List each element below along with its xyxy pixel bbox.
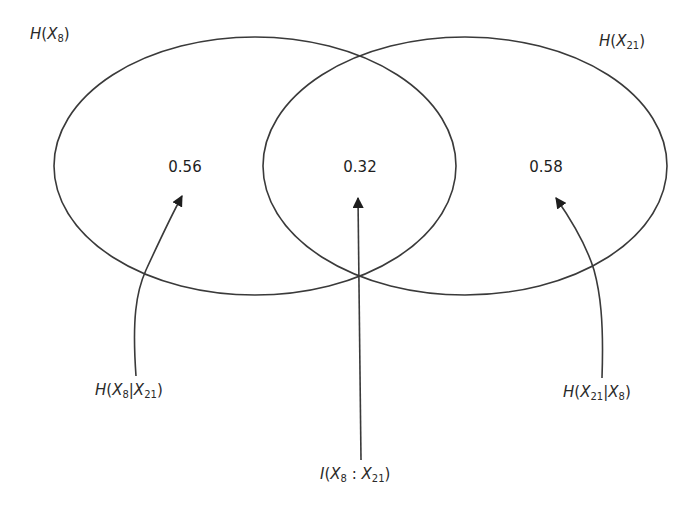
venn-diagram-canvas — [0, 0, 689, 513]
value-x8-only: 0.56 — [168, 160, 201, 175]
label-h-x21-given-x8: H(X21|X8) — [563, 385, 631, 402]
var-symbol: X — [580, 383, 590, 401]
var-symbol: X — [47, 25, 57, 43]
subscript: 8 — [57, 33, 63, 44]
label-h-x8-given-x21: H(X8|X21) — [95, 383, 163, 400]
subscript: 21 — [372, 473, 385, 484]
var-symbol: X — [616, 32, 626, 50]
fn-symbol: H — [563, 383, 574, 401]
set-x8-ellipse — [54, 37, 456, 295]
subscript: 21 — [144, 389, 157, 400]
var-symbol: X — [330, 465, 340, 483]
arrow-right-conditional — [556, 198, 603, 378]
fn-symbol: I — [320, 465, 324, 483]
var-symbol: X — [112, 381, 122, 399]
fn-symbol: H — [95, 381, 106, 399]
var-symbol: X — [608, 383, 618, 401]
subscript: 21 — [626, 40, 639, 51]
value-intersection: 0.32 — [343, 160, 376, 175]
set-x21-ellipse — [263, 37, 667, 295]
var-symbol: X — [134, 381, 144, 399]
separator: : — [347, 465, 362, 483]
subscript: 21 — [590, 391, 603, 402]
set-label-h-x21: H(X21) — [599, 34, 645, 51]
value-x21-only: 0.58 — [529, 160, 562, 175]
arrow-center-mutual-info — [358, 198, 361, 460]
arrow-left-conditional — [134, 196, 182, 376]
label-mutual-information: I(X8 : X21) — [320, 467, 390, 484]
fn-symbol: H — [30, 25, 41, 43]
subscript: 8 — [619, 391, 625, 402]
fn-symbol: H — [599, 32, 610, 50]
set-label-h-x8: H(X8) — [30, 27, 70, 44]
var-symbol: X — [362, 465, 372, 483]
